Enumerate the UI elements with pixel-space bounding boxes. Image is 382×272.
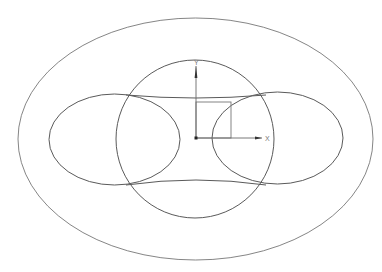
origin-point-icon[interactable]: [195, 137, 198, 140]
x-axis: X: [196, 135, 270, 142]
y-axis: Y: [194, 59, 199, 138]
left-ellipse[interactable]: [49, 94, 180, 185]
y-axis-label: Y: [194, 59, 199, 66]
bottom-connector-curve[interactable]: [126, 180, 266, 185]
cad-drawing-canvas[interactable]: Y X: [0, 0, 382, 272]
y-axis-arrowhead-icon: [195, 66, 198, 78]
x-axis-arrowhead-icon: [255, 137, 262, 140]
x-axis-label: X: [265, 135, 270, 142]
reference-rectangle[interactable]: [196, 102, 231, 138]
